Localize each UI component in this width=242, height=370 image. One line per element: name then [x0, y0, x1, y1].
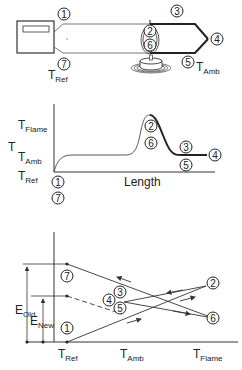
- svg-text:1: 1: [55, 177, 61, 188]
- y-axis-label: T: [8, 140, 16, 154]
- bottom-panel-emf-diagram: EOld ENew 7 1 3 4 5 2 6 TRef TAmb TFlame: [15, 232, 238, 363]
- burner-icon: [131, 55, 171, 73]
- marker-4-bot: 4: [103, 294, 115, 306]
- svg-text:1: 1: [64, 323, 70, 334]
- marker-4-top: 4: [211, 33, 223, 45]
- svg-text:3: 3: [183, 142, 189, 153]
- thermocouple-diagram: 1 2 3 4 5 6 7 TRef TAmb T TFlame TAmb TR…: [0, 0, 242, 370]
- svg-text:1: 1: [61, 9, 67, 20]
- top-panel-setup: 1 2 3 4 5 6 7 TRef TAmb: [17, 5, 223, 84]
- svg-text:6: 6: [147, 40, 153, 51]
- svg-text:5: 5: [185, 57, 191, 68]
- svg-text:3: 3: [174, 6, 180, 17]
- y-tick-t-ref: TRef: [18, 169, 39, 185]
- y-tick-t-flame: TFlame: [18, 118, 48, 134]
- middle-panel-temperature-profile: T TFlame TAmb TRef Length 1 7 2 6 3 5 4: [8, 104, 221, 204]
- line-7-to-6: [67, 264, 213, 318]
- lower-lead-wire: [54, 47, 150, 53]
- marker-2-top: 2: [144, 25, 156, 37]
- svg-text:4: 4: [214, 34, 220, 45]
- t-amb-label-top: TAmb: [196, 60, 220, 76]
- temperature-profile-thick: [150, 115, 207, 155]
- svg-text:5: 5: [117, 303, 123, 314]
- marker-3-top: 3: [171, 5, 183, 17]
- marker-4-mid: 4: [209, 149, 221, 161]
- line-345-to-2: [124, 286, 206, 302]
- marker-2-mid: 2: [145, 120, 157, 132]
- marker-6-top: 6: [144, 39, 156, 51]
- marker-1-mid: 1: [52, 176, 64, 188]
- line-1-to-2: [67, 286, 206, 342]
- marker-3-mid: 3: [180, 141, 192, 153]
- marker-7-mid: 7: [52, 192, 64, 204]
- marker-5-mid: 5: [180, 159, 192, 171]
- svg-text:7: 7: [64, 271, 70, 282]
- y-tick-t-amb: TAmb: [18, 150, 42, 166]
- line-345-to-6: [124, 302, 213, 318]
- marker-7-top: 7: [58, 58, 70, 70]
- svg-text:3: 3: [117, 287, 123, 298]
- x-tick-t-amb: TAmb: [120, 347, 144, 363]
- marker-5-top: 5: [182, 56, 194, 68]
- marker-2-bot: 2: [207, 277, 219, 289]
- svg-text:6: 6: [210, 313, 216, 324]
- e-new-label: ENew: [30, 314, 54, 330]
- svg-text:2: 2: [210, 278, 216, 289]
- x-tick-t-ref: TRef: [58, 347, 79, 363]
- x-axis-label: Length: [124, 175, 161, 189]
- marker-6-bot: 6: [207, 312, 219, 324]
- marker-1-top: 1: [58, 8, 70, 20]
- svg-text:6: 6: [148, 138, 154, 149]
- marker-3-bot: 3: [114, 286, 126, 298]
- t-ref-label-top: TRef: [48, 68, 69, 84]
- svg-text:7: 7: [61, 59, 67, 70]
- marker-7-bot: 7: [61, 270, 73, 282]
- svg-text:2: 2: [147, 26, 153, 37]
- meter-display: [23, 26, 49, 32]
- svg-text:7: 7: [55, 193, 61, 204]
- temperature-profile-thin: [54, 115, 150, 172]
- svg-text:5: 5: [183, 160, 189, 171]
- svg-text:4: 4: [212, 150, 218, 161]
- marker-1-bot: 1: [61, 322, 73, 334]
- svg-text:4: 4: [106, 295, 112, 306]
- marker-6-mid: 6: [145, 137, 157, 149]
- upper-lead-wire: [54, 24, 150, 32]
- x-tick-t-flame: TFlame: [193, 347, 223, 363]
- marker-5-bot: 5: [114, 302, 126, 314]
- svg-text:2: 2: [148, 121, 154, 132]
